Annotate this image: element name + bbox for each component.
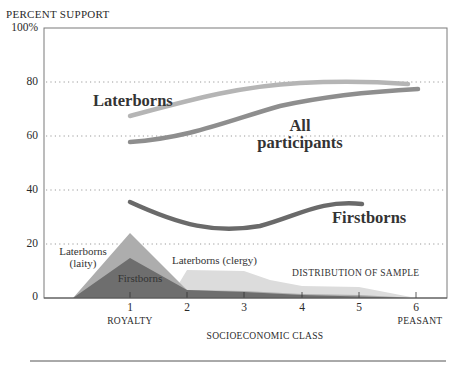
y-tick-40: 40: [4, 183, 38, 195]
x-tick-4: 4: [292, 301, 312, 313]
label-firstborns: Firstborns: [332, 209, 406, 226]
x-axis-title: SOCIOECONOMIC CLASS: [190, 331, 340, 341]
label-area-firstborns: Firstborns: [110, 272, 170, 284]
chart-canvas: [0, 0, 464, 365]
label-laterborns: Laterborns: [93, 92, 173, 109]
y-tick-80: 80: [4, 75, 38, 87]
x-tick-1: 1: [120, 301, 140, 313]
label-laity-line1: Laterborns: [48, 245, 118, 257]
x-label-royalty: ROYALTY: [100, 316, 160, 326]
y-tick-100: 100%: [4, 21, 38, 33]
x-tick-5: 5: [349, 301, 369, 313]
label-distribution-of-sample: DISTRIBUTION OF SAMPLE: [292, 268, 419, 278]
y-tick-20: 20: [4, 237, 38, 249]
label-all-participants: All participants: [240, 117, 360, 151]
line-firstborns: [130, 202, 362, 229]
x-tick-6: 6: [406, 301, 426, 313]
label-all-line1: All: [240, 117, 360, 134]
y-tick-60: 60: [4, 129, 38, 141]
x-tick-3: 3: [234, 301, 254, 313]
y-tick-0: 0: [4, 290, 38, 302]
label-all-line2: participants: [240, 134, 360, 151]
y-axis-title: PERCENT SUPPORT: [6, 8, 110, 20]
label-laterborns-laity: Laterborns (laity): [48, 245, 118, 269]
x-label-peasant: PEASANT: [390, 316, 450, 326]
label-laity-line2: (laity): [48, 257, 118, 269]
x-tick-2: 2: [177, 301, 197, 313]
label-laterborns-clergy: Laterborns (clergy): [172, 254, 282, 266]
